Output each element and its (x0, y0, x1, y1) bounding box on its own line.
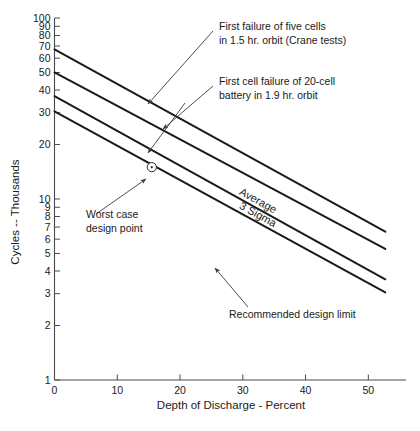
y-tick-label-10: 10 (39, 193, 51, 205)
depth-of-discharge-vs-cycles-chart: 123456789102030405060708090100 010203040… (0, 0, 420, 431)
y-tick-label-2: 2 (45, 319, 51, 331)
annot-worst-case-line2: design point (86, 222, 143, 234)
y-tick-label-3: 3 (45, 287, 51, 299)
y-tick-label-30: 30 (39, 106, 51, 118)
y-tick-label-20: 20 (39, 138, 51, 150)
x-tick-label-10: 10 (111, 384, 123, 396)
x-tick-label-30: 30 (237, 384, 249, 396)
annot-worst-case-line1: Worst case (86, 208, 138, 220)
y-tick-label-60: 60 (39, 52, 51, 64)
x-tick-label-40: 40 (300, 384, 312, 396)
y-tick-label-6: 6 (45, 233, 51, 245)
y-tick-label-7: 7 (45, 221, 51, 233)
y-tick-label-1: 1 (45, 374, 51, 386)
worst-case-point-dot (151, 166, 153, 168)
y-tick-label-70: 70 (39, 40, 51, 52)
chart-container: 123456789102030405060708090100 010203040… (0, 0, 420, 431)
y-tick-label-50: 50 (39, 66, 51, 78)
y-axis-title: Cycles -- Thousands (9, 159, 21, 264)
x-tick-label-0: 0 (52, 384, 58, 396)
x-tick-label-20: 20 (174, 384, 186, 396)
y-tick-label-40: 40 (39, 84, 51, 96)
x-tick-label-50: 50 (362, 384, 374, 396)
annot-first-failure-line1: First failure of five cells (219, 20, 326, 32)
annot-first-cell-failure-line1: First cell failure of 20-cell (219, 75, 335, 87)
y-tick-label-100: 100 (33, 12, 51, 24)
y-tick-label-4: 4 (45, 265, 51, 277)
y-tick-label-5: 5 (45, 247, 51, 259)
x-axis-title: Depth of Discharge - Percent (157, 399, 306, 411)
annot-recommended-design-limit: Recommended design limit (229, 308, 356, 320)
worst-case-design-point-marker (147, 163, 156, 172)
annot-first-cell-failure-line2: battery in 1.9 hr. orbit (219, 89, 318, 101)
annot-first-failure-line2: in 1.5 hr. orbit (Crane tests) (219, 34, 346, 46)
